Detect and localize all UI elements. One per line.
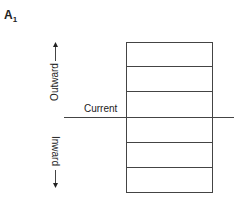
- outward-label: Outward: [50, 63, 60, 101]
- inward-label: Inward: [50, 136, 60, 166]
- diagram-canvas: [0, 0, 247, 209]
- inward-arrow-icon: [53, 183, 58, 188]
- outward-arrow-icon: [53, 42, 58, 47]
- current-label: Current: [84, 104, 117, 114]
